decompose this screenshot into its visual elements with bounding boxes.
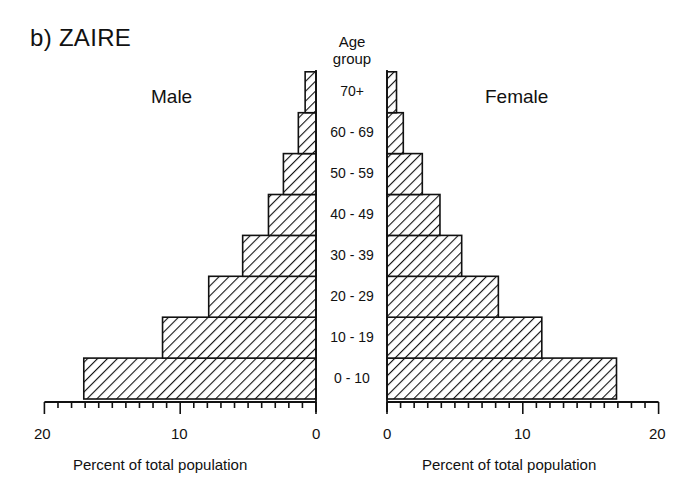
- male-bar: [209, 276, 316, 317]
- left-tick-0: 0: [312, 425, 320, 442]
- female-bar: [387, 195, 440, 236]
- age-label: 10 - 19: [318, 329, 386, 345]
- male-bar: [283, 154, 316, 195]
- female-bar: [387, 235, 462, 276]
- male-bar: [243, 235, 316, 276]
- male-bar: [84, 358, 316, 399]
- right-axis-title: Percent of total population: [422, 456, 596, 473]
- age-label: 30 - 39: [318, 247, 386, 263]
- female-bar: [387, 72, 397, 113]
- female-bar: [387, 276, 498, 317]
- male-bar: [268, 195, 316, 236]
- age-label: 0 - 10: [318, 370, 386, 386]
- age-label: 60 - 69: [318, 124, 386, 140]
- male-bar: [163, 317, 316, 358]
- right-tick-0: 0: [383, 425, 391, 442]
- female-bar: [387, 113, 403, 154]
- bars-group: [84, 72, 617, 399]
- male-bar: [305, 72, 316, 113]
- right-tick-20: 20: [649, 425, 666, 442]
- male-bar: [298, 113, 316, 154]
- left-axis-title: Percent of total population: [73, 456, 247, 473]
- left-tick-20: 20: [34, 425, 51, 442]
- right-tick-10: 10: [514, 425, 531, 442]
- age-label: 50 - 59: [318, 165, 386, 181]
- female-bar: [387, 154, 422, 195]
- female-bar: [387, 358, 617, 399]
- age-label: 70+: [318, 83, 386, 99]
- female-bar: [387, 317, 542, 358]
- age-label: 20 - 29: [318, 288, 386, 304]
- age-label: 40 - 49: [318, 206, 386, 222]
- left-tick-10: 10: [171, 425, 188, 442]
